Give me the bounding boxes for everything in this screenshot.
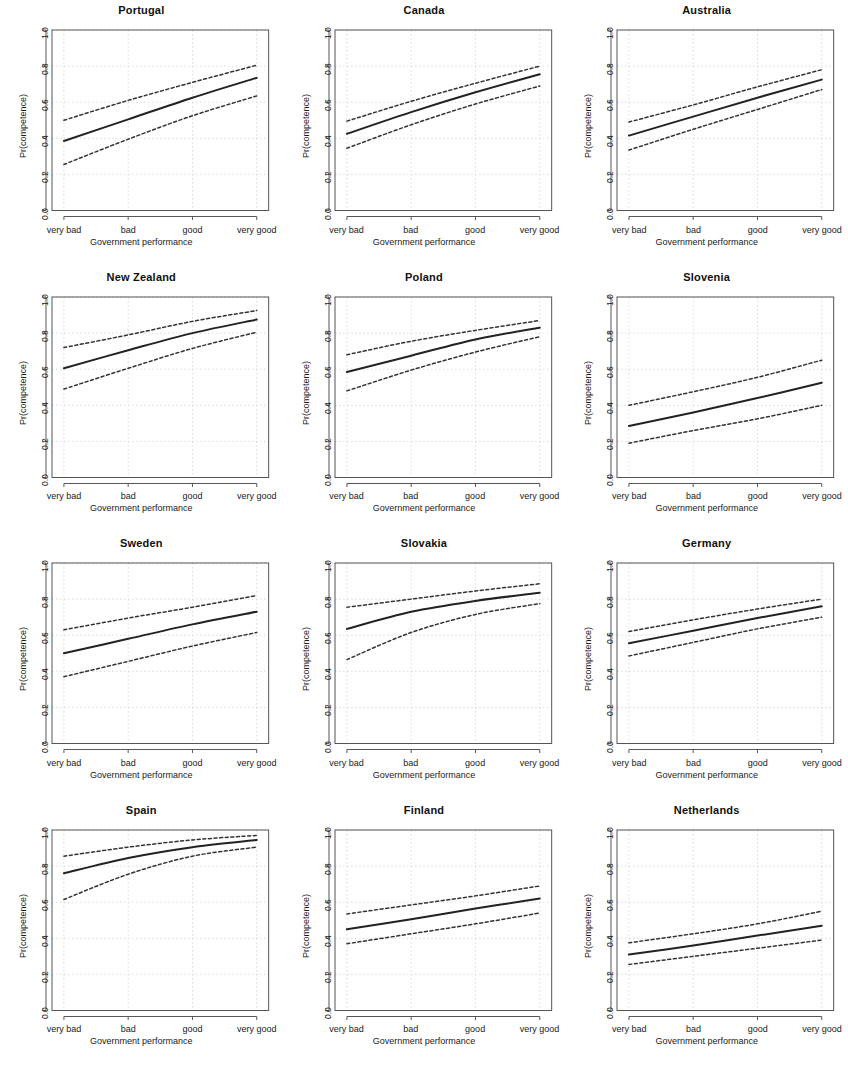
y-axis-tick-label: 0.4 xyxy=(605,668,615,680)
x-axis-tick-label: bad xyxy=(381,758,441,768)
y-axis-title: Pr(competence) xyxy=(18,627,28,691)
x-axis-tick-label: very good xyxy=(509,1024,569,1034)
panel-netherlands: Netherlands0.00.20.40.60.81.0Pr(competen… xyxy=(565,800,848,1066)
x-axis-tick-label: bad xyxy=(381,225,441,235)
x-axis-tick-label: very bad xyxy=(34,491,94,501)
x-axis-tick-label: very good xyxy=(227,225,287,235)
y-axis-tick-label: 0.4 xyxy=(40,668,50,680)
y-axis-tick-label: 0.8 xyxy=(40,63,50,75)
y-axis-tick-label: 0.8 xyxy=(40,330,50,342)
y-axis-tick-label: 0.4 xyxy=(323,935,333,947)
y-axis-title: Pr(competence) xyxy=(583,894,593,958)
y-axis-tick-label: 0.8 xyxy=(40,596,50,608)
y-axis-tick-label: 0.6 xyxy=(605,366,615,378)
panel-germany: Germany0.00.20.40.60.81.0Pr(competence)v… xyxy=(565,533,848,800)
plot-labels: 0.00.20.40.60.81.0Pr(competence)very bad… xyxy=(283,267,566,534)
y-axis-tick-label: 0.6 xyxy=(323,899,333,911)
y-axis-tick-label: 0.2 xyxy=(605,971,615,983)
x-axis-tick-label: very good xyxy=(227,758,287,768)
y-axis-tick-label: 0.4 xyxy=(40,935,50,947)
y-axis-tick-label: 0.4 xyxy=(605,402,615,414)
y-axis-tick-label: 0.2 xyxy=(323,172,333,184)
y-axis-tick-label: 0.8 xyxy=(605,330,615,342)
x-axis-tick-label: good xyxy=(445,225,505,235)
x-axis-tick-label: very bad xyxy=(34,1024,94,1034)
plot-labels: 0.00.20.40.60.81.0Pr(competence)very bad… xyxy=(0,0,283,267)
x-axis-tick-label: very good xyxy=(509,225,569,235)
x-axis-title: Government performance xyxy=(283,770,566,780)
y-axis-title: Pr(competence) xyxy=(18,94,28,158)
y-axis-tick-label: 0.0 xyxy=(40,474,50,486)
y-axis-title: Pr(competence) xyxy=(301,627,311,691)
panel-slovenia: Slovenia0.00.20.40.60.81.0Pr(competence)… xyxy=(565,267,848,534)
x-axis-tick-label: very bad xyxy=(317,491,377,501)
y-axis-tick-label: 0.8 xyxy=(40,863,50,875)
plot-labels: 0.00.20.40.60.81.0Pr(competence)very bad… xyxy=(565,800,848,1066)
x-axis-tick-label: very bad xyxy=(317,1024,377,1034)
x-axis-tick-label: good xyxy=(162,491,222,501)
x-axis-tick-label: very bad xyxy=(317,758,377,768)
plot-labels: 0.00.20.40.60.81.0Pr(competence)very bad… xyxy=(565,533,848,800)
panel-australia: Australia0.00.20.40.60.81.0Pr(competence… xyxy=(565,0,848,267)
panel-spain: Spain0.00.20.40.60.81.0Pr(competence)ver… xyxy=(0,800,283,1066)
x-axis-tick-label: good xyxy=(445,758,505,768)
x-axis-tick-label: very bad xyxy=(599,225,659,235)
plot-labels: 0.00.20.40.60.81.0Pr(competence)very bad… xyxy=(0,533,283,800)
x-axis-tick-label: very bad xyxy=(599,491,659,501)
panel-slovakia: Slovakia0.00.20.40.60.81.0Pr(competence)… xyxy=(283,533,566,800)
y-axis-tick-label: 0.2 xyxy=(605,172,615,184)
y-axis-tick-label: 0.0 xyxy=(323,474,333,486)
y-axis-tick-label: 0.6 xyxy=(40,99,50,111)
x-axis-tick-label: very good xyxy=(509,491,569,501)
y-axis-tick-label: 0.6 xyxy=(40,899,50,911)
y-axis-tick-label: 0.8 xyxy=(605,863,615,875)
panel-finland: Finland0.00.20.40.60.81.0Pr(competence)v… xyxy=(283,800,566,1066)
y-axis-tick-label: 0.2 xyxy=(323,971,333,983)
y-axis-tick-label: 1.0 xyxy=(40,27,50,39)
plot-labels: 0.00.20.40.60.81.0Pr(competence)very bad… xyxy=(283,0,566,267)
x-axis-tick-label: good xyxy=(162,225,222,235)
y-axis-tick-label: 0.6 xyxy=(323,99,333,111)
x-axis-tick-label: good xyxy=(728,225,788,235)
y-axis-tick-label: 0.0 xyxy=(605,741,615,753)
y-axis-title: Pr(competence) xyxy=(583,627,593,691)
y-axis-tick-label: 1.0 xyxy=(323,27,333,39)
y-axis-tick-label: 0.2 xyxy=(605,438,615,450)
x-axis-tick-label: very good xyxy=(509,758,569,768)
plot-labels: 0.00.20.40.60.81.0Pr(competence)very bad… xyxy=(0,800,283,1066)
x-axis-tick-label: bad xyxy=(664,758,724,768)
panel-canada: Canada0.00.20.40.60.81.0Pr(competence)ve… xyxy=(283,0,566,267)
y-axis-tick-label: 0.0 xyxy=(605,208,615,220)
y-axis-tick-label: 0.2 xyxy=(323,438,333,450)
x-axis-tick-label: bad xyxy=(98,491,158,501)
y-axis-tick-label: 0.8 xyxy=(605,63,615,75)
y-axis-tick-label: 0.2 xyxy=(605,705,615,717)
x-axis-tick-label: bad xyxy=(664,225,724,235)
y-axis-tick-label: 0.4 xyxy=(40,135,50,147)
y-axis-tick-label: 0.6 xyxy=(40,632,50,644)
y-axis-tick-label: 1.0 xyxy=(40,560,50,572)
x-axis-tick-label: very good xyxy=(227,491,287,501)
y-axis-tick-label: 1.0 xyxy=(605,294,615,306)
y-axis-tick-label: 0.8 xyxy=(323,330,333,342)
y-axis-tick-label: 1.0 xyxy=(323,560,333,572)
x-axis-tick-label: bad xyxy=(381,1024,441,1034)
x-axis-tick-label: very good xyxy=(792,491,848,501)
x-axis-tick-label: good xyxy=(162,1024,222,1034)
x-axis-tick-label: good xyxy=(728,1024,788,1034)
y-axis-tick-label: 0.8 xyxy=(323,63,333,75)
x-axis-title: Government performance xyxy=(283,503,566,513)
x-axis-title: Government performance xyxy=(565,770,848,780)
x-axis-tick-label: good xyxy=(728,491,788,501)
y-axis-tick-label: 0.0 xyxy=(605,1007,615,1019)
x-axis-tick-label: very good xyxy=(792,225,848,235)
y-axis-tick-label: 0.6 xyxy=(40,366,50,378)
panel-poland: Poland0.00.20.40.60.81.0Pr(competence)ve… xyxy=(283,267,566,534)
y-axis-title: Pr(competence) xyxy=(18,361,28,425)
x-axis-tick-label: good xyxy=(728,758,788,768)
y-axis-tick-label: 0.8 xyxy=(323,596,333,608)
y-axis-title: Pr(competence) xyxy=(301,94,311,158)
y-axis-tick-label: 0.0 xyxy=(40,208,50,220)
x-axis-tick-label: bad xyxy=(664,1024,724,1034)
y-axis-tick-label: 0.6 xyxy=(605,99,615,111)
